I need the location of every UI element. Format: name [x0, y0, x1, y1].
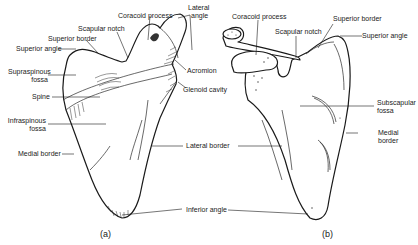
label-scapular-notch-b: Scapular notch	[275, 28, 322, 36]
scapula-b-acromion	[232, 51, 278, 73]
label-superior-angle-b: Superior angle	[362, 32, 408, 40]
label-superior-border-b: Superior border	[333, 15, 382, 23]
label-glenoid-cavity: Glenoid cavity	[183, 86, 227, 94]
label-lateral-border: Lateral border	[186, 142, 230, 150]
scapula-a-body	[63, 14, 186, 218]
label-medial-border-a: Medial border	[18, 150, 61, 158]
label-subscapular-fossa-line2: fossa	[377, 107, 394, 115]
label-acromion: Acromion	[187, 67, 217, 75]
label-medial-border-b-line1: Medial	[378, 129, 399, 137]
label-lateral-angle-line2: angle	[191, 12, 208, 20]
label-infraspinous-fossa-line1: Infraspinous	[6, 117, 46, 125]
label-infraspinous-fossa-line2: fossa	[6, 125, 46, 133]
label-supraspinous-fossa-line2: fossa	[8, 76, 48, 84]
label-lateral-angle-line1: Lateral	[188, 4, 209, 12]
caption-panel-b: (b)	[322, 229, 333, 239]
scapula-anterior-view	[223, 27, 350, 219]
label-scapular-notch-a: Scapular notch	[78, 25, 125, 33]
label-subscapular-fossa-line1: Subscapular	[377, 99, 416, 107]
label-coracoid-process-a: Coracoid process	[118, 12, 172, 20]
label-spine: Spine	[32, 93, 50, 101]
label-medial-border-b-line2: border	[378, 137, 398, 145]
label-superior-border-a: Superior border	[48, 35, 97, 43]
label-coracoid-process-b: Coracoid process	[232, 13, 286, 21]
label-supraspinous-fossa-line1: Supraspinous	[8, 68, 48, 76]
scapula-posterior-view	[63, 14, 186, 218]
label-inferior-angle: Inferior angle	[186, 206, 227, 214]
caption-panel-a: (a)	[100, 229, 111, 239]
label-superior-angle-a: Superior angle	[16, 45, 62, 53]
